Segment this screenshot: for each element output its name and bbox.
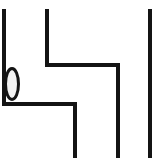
callout-ellipse bbox=[6, 69, 19, 100]
canvas-background bbox=[0, 0, 155, 165]
diagram-canvas bbox=[0, 0, 155, 165]
diagram-svg bbox=[0, 0, 155, 165]
